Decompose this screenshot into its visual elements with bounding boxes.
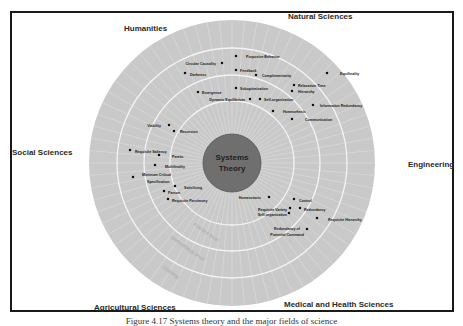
concept-marker-icon [272,110,274,112]
concept-marker-icon [235,69,237,71]
concept-label: Suboptimization [240,87,268,91]
concept-marker-icon [316,217,318,219]
concept-label: Pareto [172,155,184,159]
concept-marker-icon [293,198,295,200]
center-circle [203,134,261,192]
concept-label: Equifinality [340,72,359,76]
concept-marker-icon [163,190,165,192]
concept-marker-icon [312,104,314,106]
concept-marker-icon [235,87,237,89]
concept-label: Requisite Variety [258,208,287,212]
concept-label: Recursion [180,130,198,134]
concept-marker-icon [289,207,291,209]
concept-marker-icon [167,198,169,200]
field-label: Natural Sciences [288,12,352,21]
concept-marker-icon [326,72,328,74]
concept-label: Redundancy [304,208,326,212]
concept-label: Requisite Saliency [135,150,167,154]
concept-label: Homeostasis [239,196,261,200]
concept-marker-icon [288,212,290,214]
concept-marker-icon [158,154,160,156]
concept-label: Requisite Hierarchy [328,218,362,222]
concept-marker-icon [173,130,175,132]
concept-marker-icon [299,207,301,209]
concept-label: Specification [147,180,169,184]
concept-label: Multifinality [165,165,185,169]
field-label: Agricultural Sciences [94,303,176,312]
concept-label: Self-organization [264,98,293,102]
concept-label: Communication [305,118,332,122]
concept-label: Homeorhesis [283,110,306,114]
concept-marker-icon [235,55,237,57]
concept-label: Emergence [202,91,221,95]
concept-marker-icon [259,98,261,100]
concept-marker-icon [174,185,176,187]
concept-marker-icon [132,176,134,178]
center-title-line2: Theory [219,164,246,173]
field-label: Humanities [124,24,167,33]
concept-marker-icon [129,149,131,151]
concept-label: Circular Causality [185,62,216,66]
field-label: Social Sciences [12,148,72,157]
concept-marker-icon [291,90,293,92]
concept-label: Control [299,199,312,203]
concept-label: Feedback [240,69,257,73]
concept-label: Satisficing [184,186,202,190]
concept-label: Darkness [190,73,206,77]
concept-label: Purposive Behavior [246,55,280,59]
concept-label: Redundancy of [274,227,301,231]
concept-label: Minimum Critical [142,173,171,177]
concept-marker-icon [168,124,170,126]
center-title-line1: Systems [216,153,249,162]
concept-label: Viability [147,124,161,128]
concept-marker-icon [154,164,156,166]
figure-caption: Figure 4.17 Systems theory and the major… [0,316,463,326]
concept-label: Potential Command [270,233,304,237]
field-label: Medical and Health Sciences [284,300,393,309]
concept-label: Dynamic Equilibrium [209,98,245,102]
concept-marker-icon [268,196,270,198]
concept-marker-icon [291,118,293,120]
concept-label: Relaxation Time [298,84,326,88]
concept-marker-icon [255,74,257,76]
field-label: Engineering [408,160,454,169]
concept-marker-icon [249,98,251,100]
concept-label: Requisite Parsimony [172,199,208,203]
concept-label: Self-organization [258,213,287,217]
concept-label: Information Redundancy [320,104,362,108]
concept-marker-icon [293,84,295,86]
concept-marker-icon [306,228,308,230]
concept-label: Hierarchy [298,90,315,94]
concept-marker-icon [197,91,199,93]
concept-label: Complementarity [262,74,291,78]
concept-marker-icon [221,62,223,64]
concept-label: Parson [168,191,180,195]
concept-marker-icon [184,72,186,74]
